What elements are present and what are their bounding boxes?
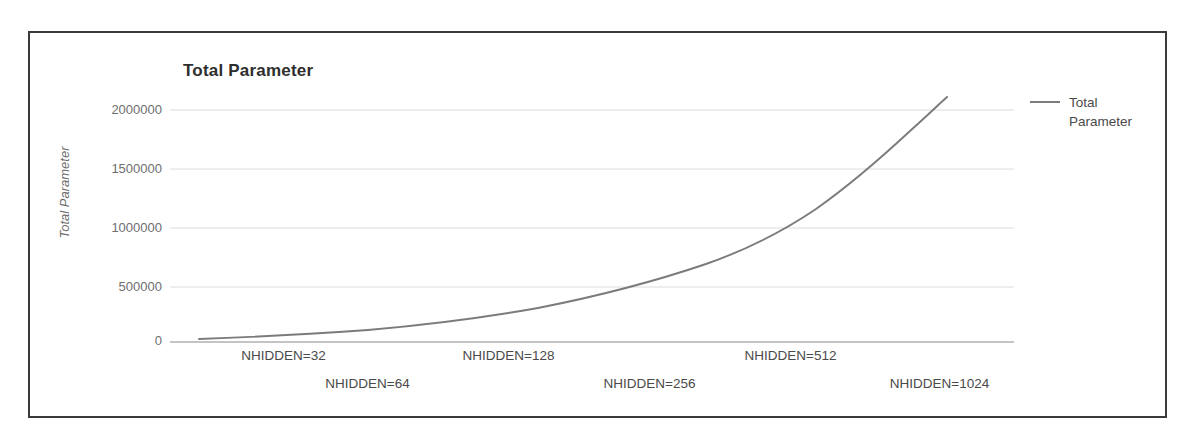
- legend-item-label: Total Parameter: [1069, 93, 1149, 131]
- legend: Total Parameter: [1030, 93, 1156, 131]
- y-tick-label: 500000: [42, 279, 162, 294]
- y-tick-label: 2000000: [42, 102, 162, 117]
- x-tick-label-nhidden-256: NHIDDEN=256: [565, 376, 734, 391]
- legend-line-marker-icon: [1030, 101, 1060, 103]
- data-series-total-parameter: [199, 97, 947, 339]
- x-tick-label-nhidden-32: NHIDDEN=32: [199, 348, 368, 363]
- y-tick-label: 0: [42, 333, 162, 348]
- chart-frame: Total Parameter Total Parameter 2000000 …: [28, 31, 1167, 418]
- x-tick-label-nhidden-64: NHIDDEN=64: [283, 376, 452, 391]
- gridlines: [170, 110, 1014, 287]
- y-tick-label: 1500000: [42, 161, 162, 176]
- y-tick-label: 1000000: [42, 220, 162, 235]
- x-tick-label-nhidden-1024: NHIDDEN=1024: [855, 376, 1024, 391]
- x-tick-label-nhidden-128: NHIDDEN=128: [424, 348, 593, 363]
- x-tick-label-nhidden-512: NHIDDEN=512: [706, 348, 875, 363]
- chart-page: Total Parameter Total Parameter 2000000 …: [0, 0, 1195, 444]
- legend-item-total-parameter[interactable]: Total Parameter: [1030, 93, 1156, 131]
